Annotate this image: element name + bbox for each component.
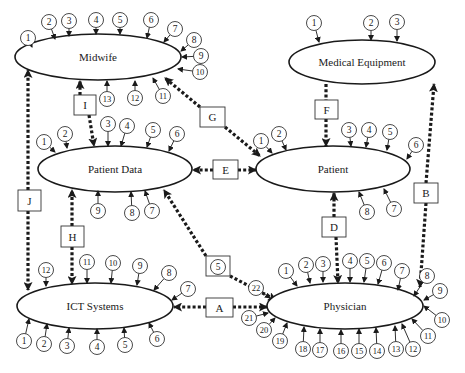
attribute-pin: 5 [113,13,128,35]
pin-number: 6 [149,15,154,25]
relationship-label: B [422,187,429,199]
pin-number: 2 [63,129,68,139]
pin-arrow [308,272,310,283]
connector-line [426,84,434,183]
attribute-pin: 18 [296,327,311,357]
pin-arrow [364,268,366,282]
attribute-pin: 4 [90,329,105,355]
pin-arrow [50,147,55,152]
pin-number: 3 [106,119,111,129]
pin-number: 8 [130,208,135,218]
entity-physician[interactable]: Physician [267,283,423,329]
pin-arrow [153,78,159,89]
connector-line [164,190,206,256]
pin-number: 8 [192,35,197,45]
attribute-pin: 1 [279,264,298,287]
pin-number: 2 [304,260,309,270]
attribute-pin: 6 [407,138,424,160]
pin-arrow [402,324,410,342]
pin-arrow [384,189,391,202]
attribute-pin: 1 [254,134,273,154]
entity-patient-data[interactable]: Patient Data [38,146,192,192]
relationship-label: H [69,231,77,243]
entity-medical-equipment[interactable]: Medical Equipment [289,40,435,84]
attribute-pin: 8 [181,33,202,52]
pin-number: 16 [337,346,346,356]
pin-arrow [26,319,29,334]
attribute-pin: 3 [342,123,357,147]
pin-arrow [147,27,149,38]
pin-arrow [398,278,400,290]
pin-arrow [376,328,377,344]
attribute-pin: 19 [273,323,288,349]
attribute-pin: 1 [17,319,32,349]
entities-layer: MidwifeMedical EquipmentPatient DataPati… [15,34,435,329]
pin-arrow [378,270,382,284]
pin-number: 17 [316,345,325,355]
connector-line [89,115,94,146]
pin-arrow [154,279,164,290]
pin-arrow [269,318,275,324]
pin-number: 1 [22,336,27,346]
pin-arrow [256,313,268,316]
attribute-pin: 10 [106,256,121,284]
relationship-h[interactable]: H [61,190,84,284]
pin-number: 5 [151,125,156,135]
pin-arrow [149,323,154,332]
attribute-pin: 6 [144,13,159,39]
entity-patient[interactable]: Patient [256,146,410,192]
pin-number: 1 [42,137,47,147]
attribute-pin: 9 [182,49,209,64]
attribute-pin: 22 [249,281,271,299]
pin-number: 5 [123,340,128,350]
entity-label: Medical Equipment [318,56,405,68]
pin-number: 3 [395,17,400,27]
attribute-pin: 3 [60,328,75,354]
relationship-f[interactable]: F [315,84,338,146]
pin-number: 10 [109,258,118,268]
relationship-i[interactable]: I [74,81,96,146]
attribute-pin: 11 [412,319,436,344]
relationship-e[interactable]: E [193,160,256,179]
attribute-pin: 2 [364,16,379,41]
attribute-pin: 3 [101,117,116,147]
pin-number: 4 [94,15,99,25]
pin-arrow [66,141,67,148]
pin-number: 1 [284,266,289,276]
pin-number: 5 [388,127,393,137]
entity-midwife[interactable]: Midwife [15,34,181,80]
attribute-pin: 14 [370,328,385,359]
attribute-pin: 7 [145,191,160,219]
attribute-pin: 5 [383,125,398,151]
pin-number: 18 [299,344,308,354]
attribute-pin: 9 [133,259,148,286]
attribute-pin: 4 [89,13,104,35]
attribute-pin: 9 [424,284,448,301]
attribute-pin: 12 [402,324,421,357]
floating-pin: 5 [211,260,226,275]
pin-arrow [283,323,287,334]
entity-ict-systems[interactable]: ICT Systems [17,283,173,329]
attribute-pin: 12 [39,263,54,287]
entity-label: ICT Systems [67,300,124,312]
attribute-pin: 16 [334,330,349,359]
pin-arrow [424,295,433,300]
attribute-pin: 11 [80,255,95,284]
attribute-pin: 20 [257,318,276,338]
relationship-g[interactable]: G [165,78,260,156]
relationship-label: F [323,104,329,116]
pin-number: 22 [252,283,261,293]
pin-arrow [45,324,47,337]
pin-number: 11 [83,257,91,267]
pin-arrow [164,35,170,42]
pin-number: 4 [125,121,130,131]
attribute-pin: 4 [120,119,135,147]
connector-line [165,78,200,107]
pin-arrow [181,45,188,51]
pin-number: 9 [138,261,143,271]
entity-label: Patient Data [88,163,142,175]
relationship-b[interactable]: B [414,84,438,287]
pin-arrow [414,282,423,296]
relationship-j[interactable]: J [18,70,41,290]
attribute-pin: 15 [352,329,367,359]
